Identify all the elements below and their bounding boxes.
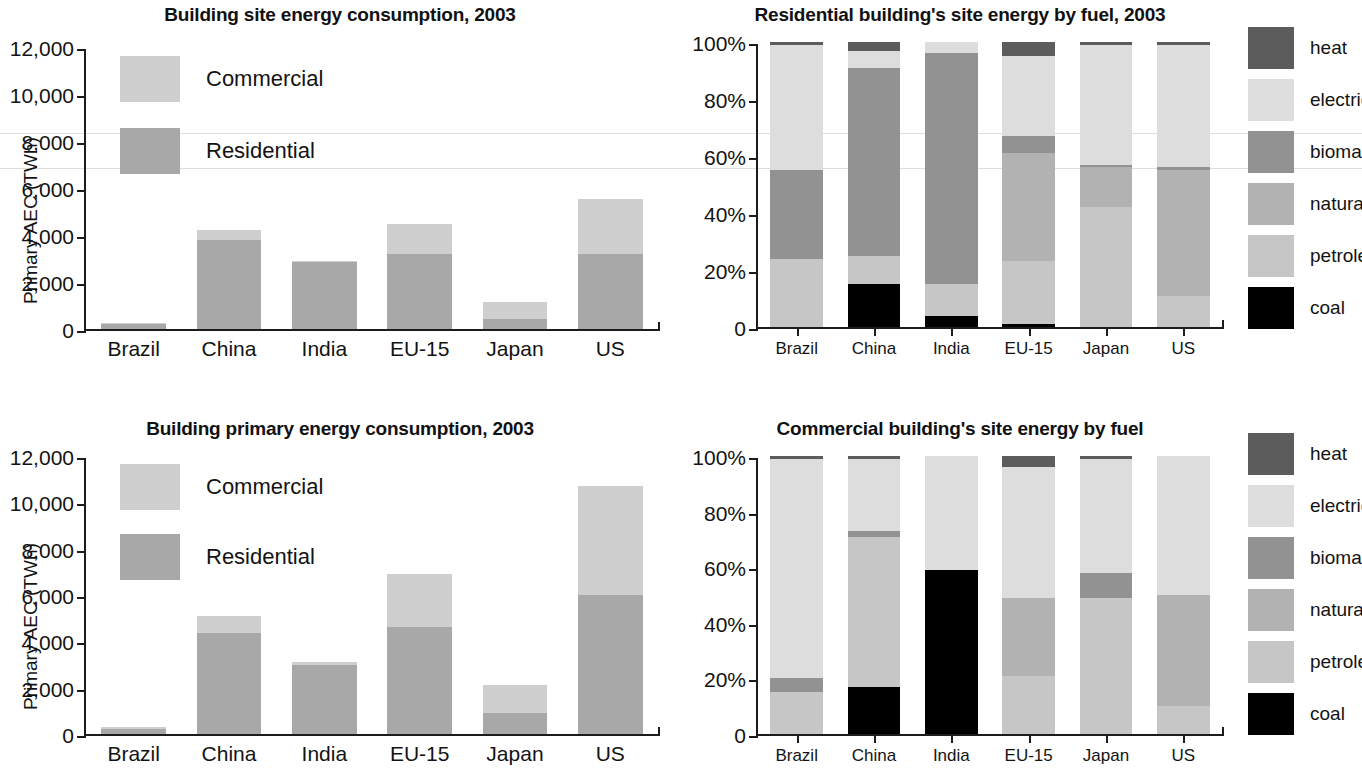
stacked-bar[interactable] [483,302,548,329]
y-axis-tick [77,49,86,51]
stacked-bar[interactable] [925,456,978,734]
stacked-bar[interactable] [578,199,643,329]
x-axis-label: Japan [467,337,562,361]
bar-segment-Residential [387,627,452,734]
bar-slot: India [913,44,990,327]
x-axis-tick [1106,327,1108,336]
bar-segment-Residential [101,729,166,734]
legend-item-natural-gas: natural gas [1248,586,1362,634]
legend-label-natural-gas: natural gas [1310,599,1362,621]
x-axis-label: Japan [1067,339,1144,359]
x-axis-label: Brazil [758,339,835,359]
stacked-bar[interactable] [197,230,262,329]
bar-group: BrazilChinaIndiaEU-15JapanUS [758,44,1222,327]
y-axis-tick-label: 6,000 [21,178,74,202]
x-axis-tick [951,734,953,743]
x-axis-label: Brazil [86,742,181,766]
fuel-legend-bottom: heatelectricitybiomassnatural gaspetrole… [1248,430,1362,742]
bar-segment-electricity [770,459,823,679]
bar-segment-natural-gas [1157,170,1210,295]
stacked-bar[interactable] [1157,42,1210,327]
legend-swatch-residential [120,128,180,174]
stacked-bar[interactable] [1002,456,1055,734]
stacked-bar[interactable] [387,224,452,329]
bar-segment-petroleum [925,284,978,315]
y-axis-tick [749,215,758,217]
y-axis-tick [749,569,758,571]
y-axis-tick [77,96,86,98]
bar-segment-electricity [925,456,978,570]
legend-label-electricity: electricity [1310,89,1362,111]
legend-label-biomass: biomass [1310,141,1362,163]
stacked-bar[interactable] [101,323,166,329]
stacked-bar[interactable] [1002,42,1055,327]
y-axis-tick-label: 4,000 [21,631,74,655]
x-axis-tick [874,734,876,743]
x-axis-label: US [563,337,658,361]
legend-swatch-petroleum [1248,641,1294,683]
stacked-bar[interactable] [848,456,901,734]
legend-swatch-biomass [1248,131,1294,173]
stacked-bar[interactable] [197,616,262,734]
chart-title: Building site energy consumption, 2003 [0,4,680,26]
bar-segment-Commercial [578,486,643,594]
plot-area: BrazilChinaIndiaEU-15JapanUS 020%40%60%8… [756,44,1222,329]
stacked-bar[interactable] [483,685,548,734]
stacked-bar[interactable] [578,486,643,734]
y-axis-tick [749,158,758,160]
fuel-legend-top: heatelectricitybiomassnatural gaspetrole… [1248,24,1362,336]
bar-segment-Residential [578,254,643,329]
x-axis-label: Japan [467,742,562,766]
legend-item-commercial: Commercial [120,56,323,102]
bar-segment-heat [1002,42,1055,56]
y-axis-tick [77,643,86,645]
stacked-bar[interactable] [1080,42,1133,327]
bar-segment-petroleum [848,256,901,285]
x-axis-tick [874,327,876,336]
legend-label-petroleum: petroleum [1310,245,1362,267]
bar-segment-coal [925,570,978,734]
bar-segment-biomass [925,53,978,284]
stacked-bar[interactable] [292,261,357,329]
bar-slot: EU-15 [990,44,1067,327]
y-axis-tick-label: 8,000 [21,131,74,155]
legend-swatch-natural-gas [1248,183,1294,225]
legend-label-electricity: electricity [1310,495,1362,517]
bar-group: BrazilChinaIndiaEU-15JapanUS [758,458,1222,734]
x-axis-label: EU-15 [372,337,467,361]
figure-page: Building site energy consumption, 2003 P… [0,0,1362,774]
x-axis-label: Japan [1067,746,1144,766]
bar-segment-heat [848,42,901,51]
x-axis-label: Brazil [86,337,181,361]
stacked-bar[interactable] [292,662,357,734]
stacked-bar[interactable] [1080,456,1133,734]
y-axis-tick-label: 80% [704,502,746,526]
legend-item-natural-gas: natural gas [1248,180,1362,228]
stacked-bar[interactable] [770,42,823,327]
y-axis-tick-label: 10,000 [10,492,74,516]
y-axis-tick [77,331,86,333]
legend-label-residential: Residential [206,138,315,164]
y-axis-tick [749,101,758,103]
bar-segment-Commercial [483,302,548,319]
stacked-bar[interactable] [925,42,978,327]
stacked-bar[interactable] [101,727,166,734]
y-axis-tick-label: 12,000 [10,446,74,470]
bar-segment-coal [925,316,978,327]
x-axis-tick [951,327,953,336]
bar-segment-biomass [1080,573,1133,598]
legend-item-heat: heat [1248,430,1362,478]
bar-slot: Japan [1067,44,1144,327]
bar-segment-Commercial [197,616,262,632]
bar-segment-Residential [483,713,548,734]
series-legend: Commercial Residential [120,464,450,604]
bar-segment-petroleum [1002,261,1055,324]
y-axis-tick [77,736,86,738]
bar-segment-biomass [770,170,823,258]
x-axis-label: US [1145,746,1222,766]
bar-slot: US [563,49,658,329]
y-axis-tick-label: 60% [704,146,746,170]
stacked-bar[interactable] [1157,456,1210,734]
stacked-bar[interactable] [848,42,901,327]
stacked-bar[interactable] [770,456,823,734]
